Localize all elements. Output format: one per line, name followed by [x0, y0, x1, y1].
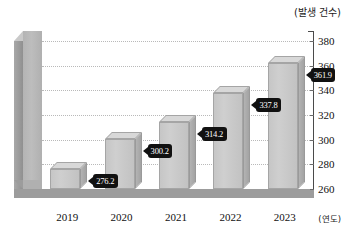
bar-side-face: [298, 56, 305, 189]
y-axis-tick-label: 260: [318, 183, 335, 195]
y-axis-tick: [310, 115, 314, 116]
y-axis-tick-label: 380: [318, 35, 335, 47]
y-axis-tick: [310, 41, 314, 42]
y-axis-tick: [310, 90, 314, 91]
bar-front-face: [268, 63, 298, 189]
x-axis-tick-label-2020: 2020: [111, 211, 133, 223]
back-wall-face: [23, 31, 42, 198]
value-label-2023: 361.9: [306, 68, 336, 82]
bar-side-face: [243, 86, 250, 189]
plot-canvas: [42, 41, 314, 189]
value-label-2022: 337.8: [251, 98, 281, 112]
y-axis-tick-label: 280: [318, 158, 335, 170]
bar-side-face: [189, 115, 196, 189]
x-axis-tick-label-2019: 2019: [56, 211, 78, 223]
floor-wedge: [14, 180, 23, 189]
bar-chart-figure: (발생 건수) (연도) 260280300320340360380276.22…: [0, 0, 347, 227]
back-wall-side: [14, 41, 23, 198]
value-label-2021: 314.2: [197, 127, 227, 141]
y-axis-tick: [310, 189, 314, 190]
value-label-text: 337.8: [256, 98, 281, 112]
x-axis-tick-label-2021: 2021: [165, 211, 187, 223]
value-label-2019: 276.2: [88, 174, 118, 188]
back-wall-bevel: [14, 31, 23, 41]
value-label-text: 276.2: [93, 174, 118, 188]
value-label-text: 300.2: [148, 144, 173, 158]
y-axis-unit-label: (발생 건수): [294, 4, 341, 19]
y-axis-tick-label: 340: [318, 84, 335, 96]
plot-area: [14, 31, 314, 198]
y-axis-tick-label: 300: [318, 134, 335, 146]
y-axis-tick-label: 320: [318, 109, 335, 121]
x-axis-tick-label-2023: 2023: [274, 211, 296, 223]
bar-2019: [50, 169, 80, 189]
y-axis-tick: [310, 140, 314, 141]
x-axis-unit-label: (연도): [318, 212, 341, 224]
x-axis-tick-label-2022: 2022: [219, 211, 241, 223]
bar-side-face: [135, 132, 142, 189]
bar-front-face: [50, 169, 80, 189]
y-axis-tick: [310, 164, 314, 165]
y-axis-tick: [310, 66, 314, 67]
bar-2023: [268, 63, 298, 189]
floor-front: [14, 189, 314, 198]
value-label-text: 314.2: [202, 127, 227, 141]
gridline: [42, 41, 314, 42]
y-axis-cap: [308, 31, 314, 32]
value-label-text: 361.9: [311, 68, 336, 82]
value-label-2020: 300.2: [143, 144, 173, 158]
